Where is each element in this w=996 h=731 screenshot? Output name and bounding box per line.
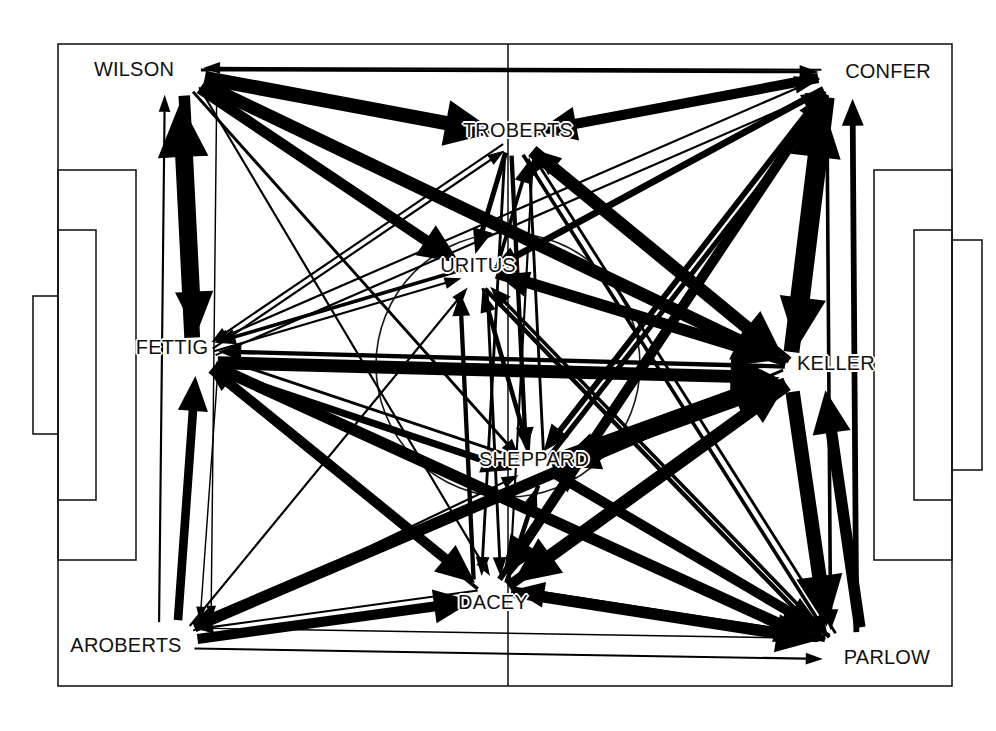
- pass-arrow: [208, 365, 475, 583]
- pass-arrow-layer: [158, 62, 866, 664]
- pass-arrow: [198, 87, 490, 576]
- pass-arrow: [538, 73, 820, 140]
- goal-left: [33, 296, 58, 434]
- pass-arrow: [206, 93, 217, 621]
- penalty-area-left: [58, 170, 136, 560]
- passing-network-diagram: [0, 0, 996, 731]
- pass-arrow: [215, 268, 462, 344]
- penalty-area-right: [874, 170, 952, 560]
- goal-area-right: [914, 230, 952, 500]
- goal-area-left: [58, 230, 96, 500]
- pass-arrow: [552, 473, 830, 638]
- pass-arrow: [201, 65, 819, 79]
- figure-root: WILSONCONFERTROBERTSURITUSFETTIGKELLERSH…: [0, 0, 996, 731]
- goal-right: [952, 240, 982, 470]
- pass-arrow: [218, 355, 778, 397]
- pass-arrow: [158, 95, 170, 622]
